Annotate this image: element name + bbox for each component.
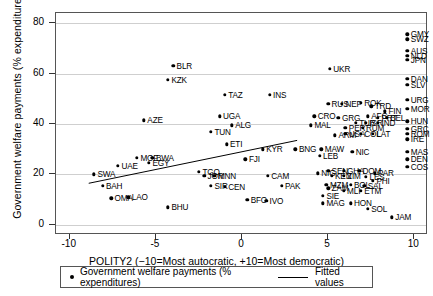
data-point-label: ALG: [235, 121, 251, 130]
data-point-label: ETM: [364, 186, 381, 195]
data-point-label: JPN: [411, 55, 426, 64]
data-point-label: CEN: [228, 183, 245, 192]
legend-fit-label: Fitted values: [315, 266, 363, 288]
data-point: [92, 173, 95, 176]
data-point-label: OMA: [115, 194, 133, 203]
data-point: [268, 93, 271, 96]
data-point-label: MAL: [314, 121, 330, 130]
data-point-label: ZIM: [347, 171, 361, 180]
x-tick-label: -10: [54, 238, 84, 249]
data-point: [166, 78, 169, 81]
data-point-label: FJI: [249, 155, 260, 164]
data-point: [147, 161, 150, 164]
data-point-label: COS: [411, 162, 428, 171]
data-point: [225, 142, 228, 145]
data-point: [351, 150, 354, 153]
data-point: [197, 170, 200, 173]
data-point: [109, 197, 112, 200]
data-point-label: SLV: [411, 80, 425, 89]
data-point: [406, 38, 409, 41]
data-point-label: BEL: [390, 113, 405, 122]
y-tick-label: 40: [18, 117, 44, 128]
data-point-label: KZK: [171, 75, 186, 84]
data-point: [209, 184, 212, 187]
data-point: [321, 194, 324, 197]
data-point-label: SOL: [371, 204, 387, 213]
data-point-label: CAM: [271, 171, 289, 180]
data-point-label: UKR: [333, 64, 350, 73]
data-point: [266, 174, 269, 177]
data-point: [364, 175, 367, 178]
data-point-label: LAO: [132, 193, 148, 202]
data-point-label: IRE: [411, 135, 424, 144]
data-point-label: MOR: [411, 104, 430, 113]
data-point-label: USA: [349, 130, 365, 139]
data-point: [406, 165, 409, 168]
data-point: [406, 107, 409, 110]
data-point-label: NIC: [356, 147, 370, 156]
data-point: [390, 216, 393, 219]
data-point: [359, 101, 362, 104]
data-point: [406, 49, 409, 52]
x-tick-label: 5: [312, 238, 342, 249]
data-point: [166, 206, 169, 209]
data-point: [171, 64, 174, 67]
data-point: [406, 98, 409, 101]
data-point-label: BAH: [106, 181, 122, 190]
data-point-label: CRO: [318, 112, 336, 121]
data-point: [406, 158, 409, 161]
data-point: [328, 67, 331, 70]
data-point-label: UAE: [122, 161, 138, 170]
data-point: [406, 137, 409, 140]
data-point: [244, 158, 247, 161]
y-tick-label: 60: [18, 67, 44, 78]
y-tick-label: 20: [18, 167, 44, 178]
data-point-label: UGA: [223, 112, 240, 121]
x-tick-label: -5: [140, 238, 170, 249]
data-point-label: SWZ: [411, 35, 429, 44]
data-point: [406, 33, 409, 36]
data-point-label: AZE: [147, 116, 162, 125]
data-point: [218, 115, 221, 118]
data-point-label: IVO: [270, 196, 284, 205]
x-tick-label: 10: [398, 238, 428, 249]
y-axis-title: Government welfare payments (% expenditu…: [11, 0, 23, 222]
data-point-label: PAK: [285, 181, 300, 190]
plot-area: BLRKZKTAZINSUKRAZEUGAALGTUNETICROMALGRGR…: [55, 12, 427, 234]
data-point: [309, 124, 312, 127]
data-point: [406, 77, 409, 80]
data-point: [245, 198, 248, 201]
data-point-label: MAG: [326, 199, 344, 208]
data-point: [349, 202, 352, 205]
data-point: [337, 116, 340, 119]
data-point: [406, 132, 409, 135]
data-point-label: LAT: [376, 130, 390, 139]
data-point: [318, 154, 321, 157]
data-point: [406, 150, 409, 153]
data-point-label: JAM: [395, 213, 411, 222]
data-point-label: GRG: [342, 113, 360, 122]
legend-scatter-label: Government welfare payments (% expenditu…: [80, 266, 262, 288]
data-point: [280, 184, 283, 187]
data-point: [316, 171, 319, 174]
data-point-label: BHU: [171, 203, 188, 212]
data-point-label: EGY: [153, 159, 170, 168]
data-point: [326, 187, 329, 190]
data-point-label: TUN: [215, 127, 231, 136]
scatter-points: BLRKZKTAZINSUKRAZEUGAALGTUNETICROMALGRGR…: [56, 13, 426, 233]
data-point: [264, 199, 267, 202]
data-point-label: URG: [411, 96, 429, 105]
data-point: [313, 115, 316, 118]
data-point: [369, 105, 372, 108]
data-point: [261, 148, 264, 151]
data-point-label: TAZ: [228, 90, 242, 99]
data-point-label: HON: [354, 199, 372, 208]
data-point-label: ETI: [230, 140, 242, 149]
data-point-label: SWA: [97, 170, 115, 179]
data-point: [223, 93, 226, 96]
data-point: [142, 119, 145, 122]
data-point: [406, 120, 409, 123]
chart-root: Government welfare payments (% expenditu…: [0, 0, 433, 296]
data-point: [326, 102, 329, 105]
data-point: [333, 134, 336, 137]
